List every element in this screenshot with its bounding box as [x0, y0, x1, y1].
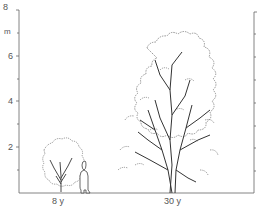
- left-axis: [16, 10, 19, 193]
- y-tick-label-8: 8: [3, 3, 8, 12]
- diagram-canvas: [0, 0, 261, 211]
- y-tick-label-6: 6: [8, 52, 13, 61]
- y-tick-label-4: 4: [8, 97, 13, 106]
- y-tick-label-2: 2: [8, 143, 13, 152]
- tree-growth-diagram: 8 m 6 4 2 8 y 30 y: [0, 0, 261, 211]
- human-silhouette-icon: [80, 161, 90, 193]
- age-label-8y: 8 y: [52, 197, 64, 206]
- axis-unit-label: m: [4, 28, 11, 36]
- right-axis: [254, 12, 257, 193]
- age-label-30y: 30 y: [164, 197, 181, 206]
- small-tree-8y: [43, 138, 84, 192]
- large-tree-30y: [118, 32, 218, 194]
